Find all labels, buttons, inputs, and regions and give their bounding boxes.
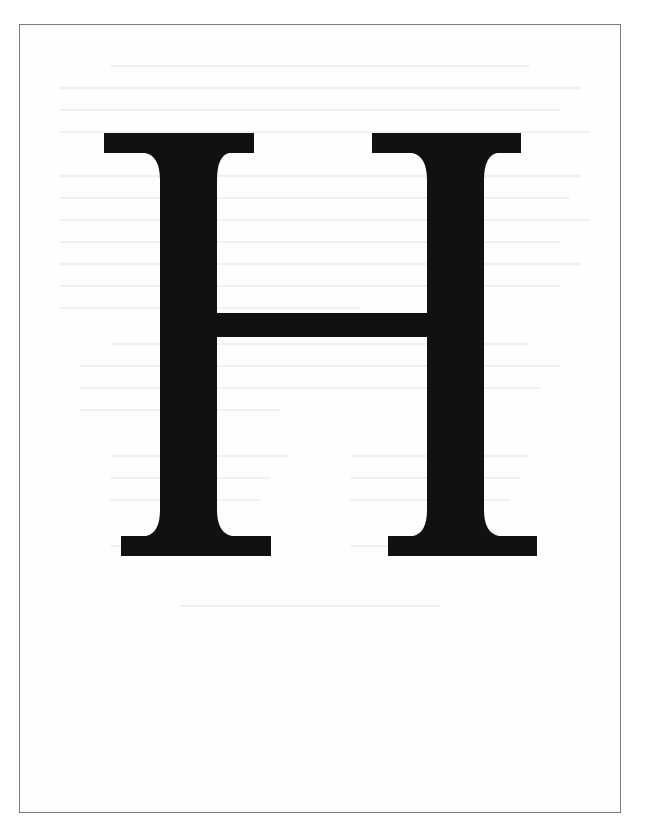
letter-h-glyph [0,0,649,839]
letter-h-shape [104,133,537,556]
